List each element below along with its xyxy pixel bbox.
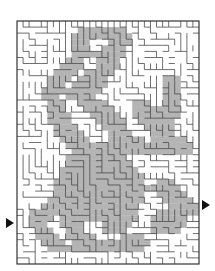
maze-board <box>0 0 215 271</box>
exit-arrow-icon <box>202 200 210 210</box>
entry-arrow-icon <box>6 218 14 228</box>
